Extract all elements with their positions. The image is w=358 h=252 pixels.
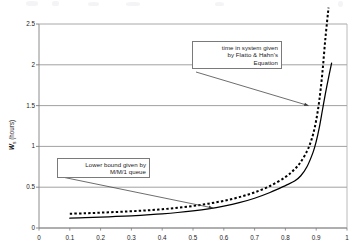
annotation-flatto-hahn: time in system given by Flatto & Hahn's …	[192, 41, 282, 69]
y-tick-label-0: 0	[14, 224, 35, 231]
y-tick-label-1.5: 1.5	[14, 102, 35, 109]
x-tick-label-0.3: 0.3	[120, 234, 142, 241]
x-tick-label-0.7: 0.7	[244, 234, 266, 241]
series-line-mm1-lower-bound	[70, 63, 332, 218]
x-tick-label-0.4: 0.4	[151, 234, 173, 241]
x-tick-label-0.9: 0.9	[305, 234, 327, 241]
leader-arrowhead-flatto	[304, 103, 309, 106]
plot-canvas	[0, 0, 358, 252]
x-tick-label-0.2: 0.2	[90, 234, 112, 241]
series-line-flatto-hahn	[70, 8, 329, 214]
annotation-lower-line-1: Lower bound given by	[61, 161, 146, 169]
x-tick-label-0.1: 0.1	[59, 234, 81, 241]
annotation-flatto-line-2: by Flatto & Hahn's	[196, 51, 278, 59]
x-tick-label-0: 0	[28, 234, 50, 241]
y-tick-label-2: 2	[14, 61, 35, 68]
annotation-flatto-line-3: Equation	[196, 59, 278, 67]
annotation-flatto-line-1: time in system given	[196, 44, 278, 52]
x-tick-label-1: 1	[336, 234, 358, 241]
annotation-leader-lines	[62, 72, 309, 209]
chart-figure: time in system given by Flatto & Hahn's …	[0, 0, 358, 252]
leader-line-flatto	[196, 72, 309, 106]
annotation-lower-line-2: M/M/1 queue	[61, 168, 146, 176]
y-tick-label-1: 1	[14, 142, 35, 149]
x-tick-label-0.6: 0.6	[213, 234, 235, 241]
y-tick-label-2.5: 2.5	[14, 20, 35, 27]
annotation-lower-bound: Lower bound given by M/M/1 queue	[57, 158, 150, 178]
x-tick-label-0.5: 0.5	[182, 234, 204, 241]
leader-line-lower	[62, 177, 213, 208]
y-tick-label-0.5: 0.5	[14, 183, 35, 190]
x-tick-label-0.8: 0.8	[274, 234, 296, 241]
